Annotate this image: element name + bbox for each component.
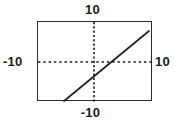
x-axis-min-label: -10	[3, 55, 22, 68]
y-axis-max-label: 10	[5, 3, 175, 16]
data-series-line	[64, 31, 149, 101]
graph-screenshot: 10 -10 10 -10	[0, 0, 175, 125]
plot-frame	[37, 21, 152, 101]
plot-canvas	[38, 22, 153, 102]
y-axis-min-label: -10	[3, 106, 175, 119]
x-axis-max-label: 10	[155, 55, 170, 68]
